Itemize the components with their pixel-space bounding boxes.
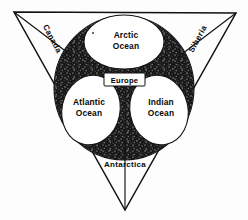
- corner-label-canada: Canada: [41, 23, 64, 55]
- atlantic-label-line2: Ocean: [76, 108, 102, 118]
- europe-label: Europe: [111, 76, 138, 85]
- corner-label-antarctica: Antarctica: [104, 160, 146, 169]
- ink-speck: [92, 32, 94, 34]
- europe-marker[interactable]: Europe: [104, 73, 145, 86]
- arctic-label-line1: Arctic: [114, 30, 139, 40]
- indian-label-line1: Indian: [148, 97, 174, 107]
- corner-label-siberia: Siberia: [187, 24, 209, 54]
- ocean-label-indian: Indian Ocean: [148, 97, 174, 118]
- ocean-label-arctic: Arctic Ocean: [113, 30, 139, 51]
- ocean-label-atlantic: Atlantic Ocean: [73, 97, 105, 118]
- indian-label-line2: Ocean: [148, 108, 174, 118]
- arctic-label-line2: Ocean: [113, 41, 139, 51]
- diagram-root: Europe Arctic Ocean Atlantic Ocean India…: [0, 0, 248, 220]
- atlantic-label-line1: Atlantic: [73, 97, 105, 107]
- ocean-triangle-figure: Europe Arctic Ocean Atlantic Ocean India…: [0, 0, 248, 220]
